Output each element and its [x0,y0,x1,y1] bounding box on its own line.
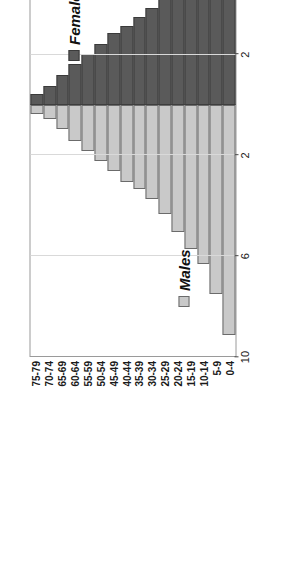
age-label: 5-9 [211,358,224,391]
bar-females [82,54,95,105]
chart-area: 75-7970-7465-6960-6455-5950-5445-4940-44… [26,0,269,391]
bar-males [184,105,197,249]
age-label: 45-49 [107,358,120,391]
figure-page: 75-7970-7465-6960-6455-5950-5445-4940-44… [0,0,294,563]
tick-mark [235,154,239,155]
bar-females [223,0,236,105]
bar-males [107,105,120,172]
age-axis-labels: 75-7970-7465-6960-6455-5950-5445-4940-44… [30,358,237,391]
bar-females [210,0,223,105]
population-pyramid-chart: 75-7970-7465-6960-6455-5950-5445-4940-44… [26,0,269,391]
value-tick-label: 10 [239,351,251,364]
age-label: 65-69 [55,358,68,391]
bar-males [210,105,223,295]
bar-females [146,8,159,105]
age-label: 15-19 [185,358,198,391]
value-tick-label: 2 [239,51,251,57]
bar-females [95,44,108,105]
bar-females [197,0,210,105]
bar-females [159,0,172,105]
bar-females [43,86,56,105]
tick-mark [235,54,239,55]
age-label: 0-4 [224,358,237,391]
bar-males [69,105,82,141]
tick-mark [235,255,239,256]
bar-males [159,105,172,214]
bar-females [69,64,82,105]
bar-females [184,0,197,105]
age-label: 25-29 [159,358,172,391]
bar-males [43,105,56,119]
bar-males [197,105,210,264]
age-label: 20-24 [172,358,185,391]
bar-males [95,105,108,161]
gridline [31,255,236,256]
legend-item-females: Females [66,0,83,61]
age-label: 55-59 [81,358,94,391]
gridline [31,154,236,155]
age-label: 35-39 [133,358,146,391]
bar-females [107,33,120,105]
bar-males [56,105,69,129]
legend-swatch-males-icon [179,296,190,307]
rotated-figure-wrapper: 75-7970-7465-6960-6455-5950-5445-4940-44… [0,0,294,563]
value-tick-label: 2 [239,152,251,158]
plot-frame [30,0,237,357]
bar-females [56,75,69,105]
age-label: 75-79 [30,358,43,391]
bar-males [82,105,95,151]
age-label: 50-54 [94,358,107,391]
bar-females [120,26,133,105]
bar-females [133,17,146,105]
bar-males [133,105,146,189]
bar-males [31,105,44,114]
age-label: 70-74 [42,358,55,391]
age-label: 40-44 [120,358,133,391]
value-tick-label: 6 [239,253,251,259]
legend-label-females: Females [66,0,83,45]
legend-swatch-females-icon [69,50,80,61]
value-axis-labels: 10622610 [239,0,265,357]
legend-label-males: Males [176,249,193,291]
age-label: 10-14 [198,358,211,391]
bar-females [171,0,184,105]
bar-males [120,105,133,182]
gridline [31,54,236,55]
bar-males [171,105,184,232]
tick-mark [235,356,239,357]
age-label: 60-64 [68,358,81,391]
center-axis [31,104,236,105]
bar-males [223,105,236,335]
bar-males [146,105,159,199]
legend-item-males: Males [176,249,193,307]
age-label: 30-34 [146,358,159,391]
